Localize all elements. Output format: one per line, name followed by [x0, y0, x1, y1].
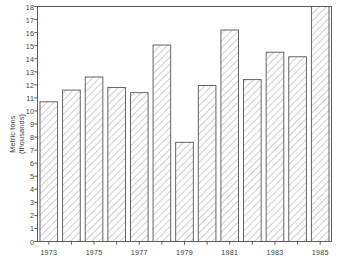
bar: [289, 57, 307, 242]
x-tick-label: 1981: [221, 248, 238, 257]
y-tick-label: 14: [0, 54, 34, 63]
bar-chart: Metric tons (thousands) 0123456789101112…: [0, 0, 341, 269]
y-tick-label: 7: [0, 146, 34, 155]
y-tick-label: 8: [0, 133, 34, 142]
bar: [153, 45, 171, 241]
x-tick-label: 1985: [312, 248, 329, 257]
y-tick-label: 12: [0, 80, 34, 89]
bar: [176, 142, 194, 241]
bar: [108, 87, 126, 241]
y-tick-label: 11: [0, 93, 34, 102]
bar: [311, 7, 329, 242]
bar: [244, 80, 262, 242]
plot-area: [0, 0, 341, 269]
bar: [221, 30, 239, 242]
y-tick-label: 3: [0, 198, 34, 207]
bar: [63, 90, 81, 241]
y-tick-label: 2: [0, 211, 34, 220]
x-tick-label: 1975: [86, 248, 103, 257]
x-tick-label: 1983: [267, 248, 284, 257]
y-tick-label: 0: [0, 237, 34, 246]
bar: [40, 102, 58, 242]
y-tick-label: 13: [0, 67, 34, 76]
x-tick-label: 1977: [131, 248, 148, 257]
y-tick-label: 1: [0, 224, 34, 233]
y-tick-label: 18: [0, 2, 34, 11]
y-tick-label: 10: [0, 106, 34, 115]
y-tick-label: 9: [0, 120, 34, 129]
y-tick-label: 16: [0, 28, 34, 37]
y-tick-label: 5: [0, 172, 34, 181]
y-tick-label: 6: [0, 159, 34, 168]
bar: [130, 93, 148, 242]
bar: [266, 52, 284, 241]
x-tick-label: 1973: [40, 248, 57, 257]
x-tick-label: 1979: [176, 248, 193, 257]
bar: [85, 77, 103, 242]
y-tick-label: 4: [0, 185, 34, 194]
y-tick-label: 15: [0, 41, 34, 50]
y-tick-label: 17: [0, 15, 34, 24]
bar: [198, 85, 216, 241]
